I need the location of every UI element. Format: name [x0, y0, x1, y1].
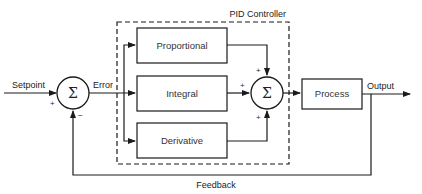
derivative-label: Derivative [161, 135, 203, 146]
setpoint-label: Setpoint [12, 80, 46, 90]
derivative-block: Derivative [137, 123, 227, 158]
controller-summing-junction: Σ [251, 77, 283, 109]
feedback-label: Feedback [196, 180, 236, 190]
process-block: Process [302, 79, 362, 109]
integral-block: Integral [137, 76, 227, 111]
sigma-icon: Σ [68, 85, 78, 101]
split-to-proportional [124, 45, 135, 93]
feedback-minus-sign: − [78, 111, 83, 120]
pid-controller-label: PID Controller [229, 9, 286, 19]
integral-label: Integral [166, 88, 198, 99]
proportional-block: Proportional [137, 28, 227, 63]
input-summing-junction: Σ [57, 77, 89, 109]
proportional-plus-sign: + [256, 66, 261, 75]
process-label: Process [315, 88, 350, 99]
error-label: Error [93, 80, 113, 90]
derivative-plus-sign: + [256, 113, 261, 122]
split-to-derivative [124, 93, 135, 141]
integral-plus-sign: + [240, 81, 245, 90]
setpoint-plus-sign: + [50, 99, 55, 108]
output-label: Output [367, 81, 395, 91]
pid-block-diagram: PID Controller Setpoint + Σ − Error Prop… [0, 0, 422, 194]
derivative-output-line [227, 111, 267, 141]
sigma-icon: Σ [262, 85, 272, 101]
proportional-output-line [227, 45, 267, 75]
proportional-label: Proportional [156, 40, 207, 51]
